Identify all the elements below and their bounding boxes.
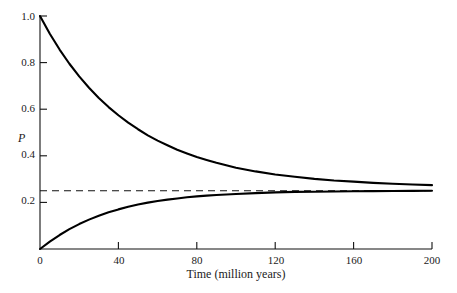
y-tick-marks	[40, 16, 47, 202]
x-axis-title: Time (million years)	[136, 268, 336, 280]
xtick-label-200: 200	[419, 255, 445, 266]
chart-figure: 1.0 0.8 0.6 0.4 0.2 0 40 80 120 160 200 …	[0, 0, 457, 293]
xtick-label-160: 160	[341, 255, 367, 266]
xtick-label-120: 120	[263, 255, 289, 266]
ytick-label-0.2: 0.2	[8, 195, 35, 206]
y-axis-title: P	[18, 132, 25, 144]
xtick-label-0: 0	[28, 255, 52, 266]
xtick-label-80: 80	[185, 255, 209, 266]
x-tick-marks	[118, 242, 432, 249]
ytick-label-1.0: 1.0	[8, 11, 35, 22]
lower-rise-curve	[40, 191, 432, 249]
xtick-label-40: 40	[107, 255, 131, 266]
ytick-label-0.8: 0.8	[8, 57, 35, 68]
ytick-label-0.6: 0.6	[8, 103, 35, 114]
upper-decay-curve	[40, 16, 432, 185]
ytick-label-0.4: 0.4	[8, 149, 35, 160]
plot-area	[0, 0, 457, 293]
